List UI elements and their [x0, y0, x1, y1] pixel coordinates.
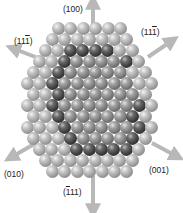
atom-sphere: [71, 165, 84, 178]
miller-index-label: (111): [141, 28, 160, 37]
atom-sphere: [108, 165, 121, 178]
miller-index-label: (111): [14, 37, 33, 46]
crystal-diagram: (100)(111)(111)(010)(001)(111): [0, 0, 183, 213]
atom-sphere: [46, 165, 59, 178]
atom-sphere: [96, 165, 109, 178]
arrow-4: [152, 143, 178, 157]
miller-index-label: (111): [63, 188, 82, 197]
miller-index-label: (001): [149, 166, 169, 175]
miller-index-label: (100): [63, 5, 83, 14]
arrow-2: [148, 40, 173, 57]
miller-index-label: (010): [4, 170, 24, 179]
